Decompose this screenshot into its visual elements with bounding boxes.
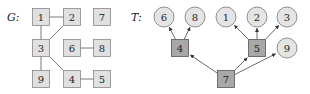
svg-text:7: 7 — [99, 12, 105, 23]
svg-text:2: 2 — [254, 12, 260, 23]
graph-t-node-8: 8 — [185, 7, 205, 27]
graph-t-arrow — [169, 27, 175, 39]
graph-g-node-4: 4 — [64, 71, 81, 88]
graph-g-node-6: 6 — [64, 40, 81, 57]
graph-t-node-3: 3 — [277, 7, 297, 27]
svg-text:1: 1 — [223, 12, 229, 23]
svg-text:3: 3 — [284, 12, 290, 23]
svg-text:6: 6 — [69, 43, 75, 54]
svg-text:8: 8 — [192, 12, 198, 23]
graph-t-node-5: 5 — [249, 40, 266, 57]
graph-t-node-4: 4 — [172, 40, 189, 57]
graph-t-arrow — [265, 25, 279, 39]
graph-g-node-2: 2 — [64, 9, 81, 26]
graph-t-arrow — [184, 27, 190, 39]
graph-t-node-2: 2 — [247, 7, 267, 27]
graph-g-node-3: 3 — [33, 40, 50, 57]
svg-text:1: 1 — [38, 12, 44, 23]
svg-text:9: 9 — [38, 74, 44, 85]
graph-t-node-6: 6 — [154, 7, 174, 27]
graph-t-node-1: 1 — [216, 7, 236, 27]
svg-text:4: 4 — [177, 43, 183, 54]
graph-g-node-9: 9 — [33, 71, 50, 88]
svg-text:8: 8 — [99, 43, 105, 54]
graph-g-nodes: 127368945 — [33, 9, 111, 88]
svg-text:3: 3 — [38, 43, 44, 54]
svg-text:2: 2 — [69, 12, 75, 23]
graph-g-node-1: 1 — [33, 9, 50, 26]
graph-t-arrow — [235, 58, 248, 71]
graph-g-node-7: 7 — [94, 9, 111, 26]
graph-t-nodes: 681234597 — [154, 7, 297, 88]
graph-t-label: T: — [131, 11, 142, 24]
svg-text:5: 5 — [254, 43, 260, 54]
graph-t-node-7: 7 — [218, 71, 235, 88]
svg-text:9: 9 — [284, 43, 290, 54]
graph-t-node-9: 9 — [277, 38, 297, 58]
svg-text:6: 6 — [161, 12, 167, 23]
graph-g-label: G: — [7, 11, 20, 24]
graph-g-node-5: 5 — [94, 71, 111, 88]
graph-t-arrow — [234, 25, 248, 39]
svg-text:5: 5 — [99, 74, 105, 85]
graph-g-node-8: 8 — [94, 40, 111, 57]
diagram-canvas: G: T: 127368945 681234597 — [0, 0, 310, 94]
svg-text:4: 4 — [69, 74, 75, 85]
graph-t-arrow — [190, 55, 217, 73]
svg-text:7: 7 — [223, 74, 229, 85]
